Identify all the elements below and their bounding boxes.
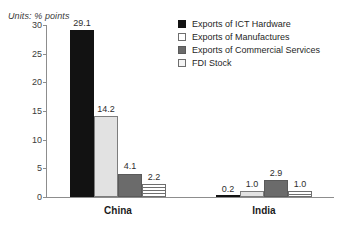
legend-swatch-icon (178, 59, 186, 67)
bar-value-label: 2.9 (270, 168, 283, 178)
bar-china-series-2 (118, 174, 142, 198)
bar-india-series-0 (216, 195, 240, 197)
legend-item-label: FDI Stock (192, 58, 232, 68)
bar-china-series-1 (94, 116, 118, 197)
y-axis-tick-label: 25 (32, 49, 42, 59)
legend-item-label: Exports of ICT Hardware (192, 19, 291, 29)
y-axis-tick-label: 10 (32, 135, 42, 145)
y-axis-tick-label: 15 (32, 106, 42, 116)
bar-value-label: 1.0 (294, 179, 307, 189)
bar-value-label: 2.2 (148, 172, 161, 182)
bar-value-label: 29.1 (73, 18, 91, 28)
legend-swatch-icon (178, 46, 186, 54)
bar-value-label: 0.2 (222, 184, 235, 194)
legend-item-label: Exports of Commercial Services (192, 45, 320, 55)
bar-value-label: 1.0 (246, 179, 259, 189)
legend-item-label: Exports of Manufactures (192, 32, 290, 42)
legend-item: FDI Stock (178, 57, 320, 69)
bar-india-series-2 (264, 180, 288, 197)
bar-india-series-1 (240, 191, 264, 197)
y-axis-tick-label: 30 (32, 20, 42, 30)
x-axis-category-label-india: India (252, 205, 275, 216)
legend-item: Exports of Manufactures (178, 31, 320, 43)
y-axis-tick-label: 20 (32, 77, 42, 87)
bar-india-series-3 (288, 191, 312, 197)
bar-china-series-3 (142, 184, 166, 197)
y-axis-tick-labels: 302520151050 (0, 25, 42, 197)
bar-value-label: 14.2 (97, 104, 115, 114)
legend-swatch-icon (178, 20, 186, 28)
legend-item: Exports of Commercial Services (178, 44, 320, 56)
chart-legend: Exports of ICT HardwareExports of Manufa… (178, 18, 320, 70)
bar-value-label: 4.1 (124, 161, 137, 171)
legend-swatch-icon (178, 33, 186, 41)
y-axis-tick-label: 5 (37, 163, 42, 173)
bar-chart: Units: % points 302520151050 29.114.24.1… (0, 0, 341, 244)
bar-china-series-0 (70, 30, 94, 197)
legend-item: Exports of ICT Hardware (178, 18, 320, 30)
x-axis-line (46, 197, 334, 198)
y-axis-tick-label: 0 (37, 192, 42, 202)
x-axis-category-label-china: China (104, 205, 132, 216)
